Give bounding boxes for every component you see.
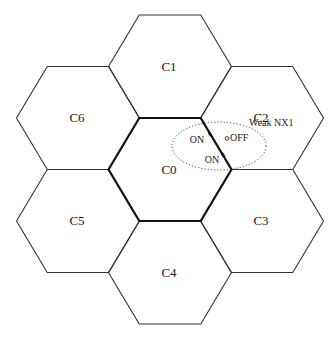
cell-label-c6: C6 [69, 110, 85, 125]
annotation-on-0: ON [190, 134, 204, 145]
cell-label-c5: C5 [69, 213, 84, 228]
off-point-icon [225, 137, 229, 141]
diagram-canvas: Weak NX1 C1C2C3C4C5C6C0 ONONOFF [0, 0, 335, 341]
hex-cell-diagram: Weak NX1 C1C2C3C4C5C6C0 ONONOFF [0, 0, 335, 341]
cell-label-c2: C2 [253, 110, 268, 125]
cell-label-c4: C4 [161, 265, 177, 280]
annotation-off-2: OFF [230, 132, 249, 143]
annotation-on-1: ON [205, 154, 219, 165]
cell-label-c1: C1 [161, 59, 176, 74]
cell-label-c0: C0 [161, 162, 176, 177]
cell-label-c3: C3 [253, 213, 268, 228]
